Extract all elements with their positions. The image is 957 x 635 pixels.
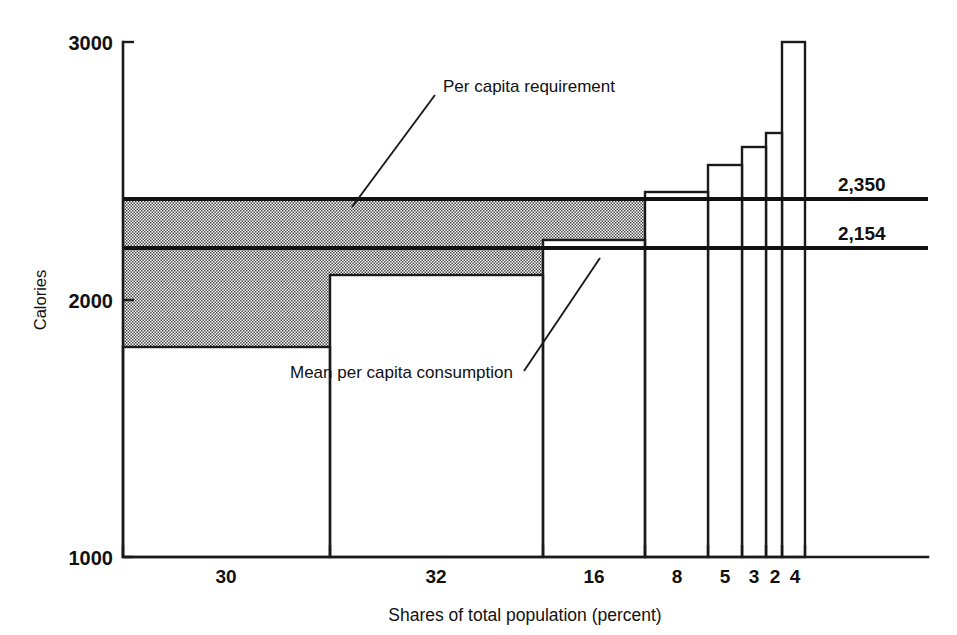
ytick-label-1000: 1000 bbox=[69, 547, 114, 569]
bar-16-percent bbox=[543, 240, 645, 557]
calorie-distribution-chart: 3000 2000 1000 Calories 30 32 16 8 5 3 2… bbox=[0, 0, 957, 635]
mean-value-label: 2,154 bbox=[838, 223, 886, 244]
xtick-label-4: 4 bbox=[790, 566, 801, 587]
requirement-leader-line bbox=[352, 95, 435, 207]
calorie-deficit-shaded-region bbox=[123, 199, 645, 347]
xtick-label-32: 32 bbox=[425, 566, 446, 587]
ytick-label-2000: 2000 bbox=[69, 290, 114, 312]
bar-2-percent bbox=[766, 133, 782, 557]
bar-5-percent bbox=[708, 165, 742, 557]
ytick-label-3000: 3000 bbox=[69, 32, 114, 54]
bar-32-percent bbox=[330, 275, 543, 557]
x-tick-labels: 30 32 16 8 5 3 2 4 bbox=[215, 566, 800, 587]
xtick-label-30: 30 bbox=[215, 566, 236, 587]
y-tick-labels: 3000 2000 1000 bbox=[69, 32, 114, 569]
xtick-label-8: 8 bbox=[672, 566, 683, 587]
xtick-label-3: 3 bbox=[749, 566, 760, 587]
xtick-label-5: 5 bbox=[720, 566, 731, 587]
xtick-label-2: 2 bbox=[770, 566, 781, 587]
xtick-label-16: 16 bbox=[583, 566, 604, 587]
x-axis-title: Shares of total population (percent) bbox=[388, 605, 661, 625]
y-axis-title: Calories bbox=[31, 270, 49, 331]
chart-canvas: 3000 2000 1000 Calories 30 32 16 8 5 3 2… bbox=[0, 0, 957, 635]
bar-3-percent bbox=[742, 147, 766, 557]
mean-annotation-text: Mean per capita consumption bbox=[290, 363, 513, 382]
requirement-value-label: 2,350 bbox=[838, 174, 886, 195]
bar-4-percent bbox=[782, 42, 805, 557]
requirement-annotation-text: Per capita requirement bbox=[443, 77, 615, 96]
